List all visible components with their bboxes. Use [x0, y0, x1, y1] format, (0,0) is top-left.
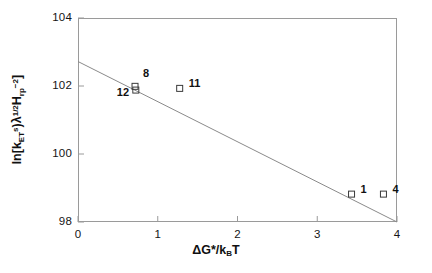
data-point-label: 1 [361, 183, 367, 195]
y-tick-label: 98 [32, 215, 72, 227]
data-point-label: 4 [392, 183, 398, 195]
x-tick-label: 2 [226, 228, 250, 240]
x-axis-title: ΔG*/kBT [0, 243, 432, 258]
y-tick-label: 100 [32, 147, 72, 159]
data-marker [349, 191, 355, 197]
y-axis-ticks [78, 18, 84, 222]
y-tick-label: 104 [32, 11, 72, 23]
y-tick-label: 102 [32, 79, 72, 91]
x-tick-label: 0 [66, 228, 90, 240]
data-point-label: 11 [189, 77, 201, 89]
y-axis-title: ln[kETs)λ1/2Hrp−2] [10, 10, 25, 230]
x-axis-ticks [78, 216, 397, 222]
x-tick-label: 1 [146, 228, 170, 240]
data-marker [177, 85, 183, 91]
data-marker [380, 191, 386, 197]
data-point-label: 12 [117, 86, 129, 98]
data-markers [132, 83, 386, 197]
x-tick-label: 4 [385, 228, 409, 240]
chart-figure: 98100102104 01234 8121114 ΔG*/kBT ln[kET… [0, 0, 432, 273]
data-point-label: 8 [143, 67, 149, 79]
x-tick-label: 3 [305, 228, 329, 240]
chart-overlay [0, 0, 432, 273]
